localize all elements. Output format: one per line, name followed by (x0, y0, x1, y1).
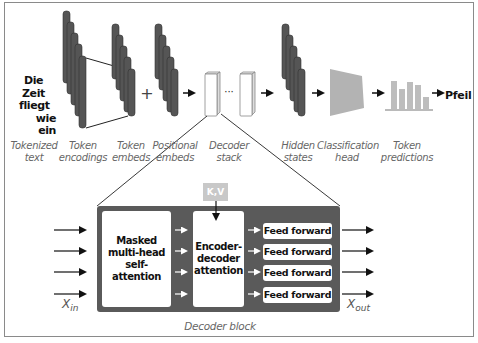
kv-input-box: K,V (203, 183, 228, 201)
masked-self-attention-box: Masked multi-head self-attention (102, 211, 171, 307)
x-out-label: Xout (347, 297, 370, 313)
label-positional-embeds: Positionalembeds (150, 140, 200, 164)
classification-head-shape (330, 69, 364, 116)
label-hidden-states: Hiddenstates (278, 140, 318, 164)
decoder-block: Masked multi-head self-attention Encoder… (97, 206, 340, 312)
label-decoder-stack: Decoderstack (207, 140, 251, 164)
output-arrows (342, 230, 372, 294)
input-word: ein (14, 125, 56, 138)
feed-forward-box: Feed forward (263, 244, 332, 260)
feed-forward-box: Feed forward (263, 265, 332, 281)
encoder-decoder-attention-box: Encoder- decoder attention (193, 211, 244, 307)
label-token-predictions: Tokenpredictions (380, 140, 434, 164)
input-arrows (54, 230, 85, 294)
input-word: Die (14, 75, 56, 88)
label-tokenized-text: Tokenizedtext (2, 140, 66, 164)
ellipsis: ··· (224, 86, 234, 97)
token-predictions-bars (391, 81, 429, 109)
token-embeds-stack (112, 24, 135, 116)
x-in-label: Xin (62, 297, 78, 313)
label-token-encodings: Tokenencodings (58, 140, 108, 164)
label-token-embeds: Tokenembeds (111, 140, 151, 164)
label-classification-head: Classificationhead (317, 140, 377, 164)
plus-sign: + (140, 84, 153, 103)
hidden-states-stack (282, 24, 305, 116)
feed-forward-box: Feed forward (263, 287, 332, 303)
input-word: fliegt (14, 100, 56, 113)
output-word: Pfeil (445, 89, 471, 102)
decoder-block-caption: Decoder block (180, 320, 260, 332)
token-encodings-stack (63, 11, 86, 128)
tokenized-text-words: Die Zeit fliegt wie ein (14, 75, 56, 138)
positional-embeds-stack (155, 24, 178, 116)
feed-forward-box: Feed forward (263, 223, 332, 239)
